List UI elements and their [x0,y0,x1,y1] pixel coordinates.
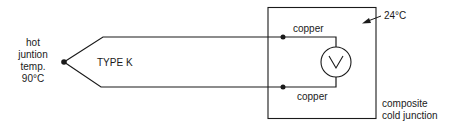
cold-junction-label-line-1: composite [382,98,428,109]
temperature-arrow-icon [362,16,381,24]
cold-junction-label-line-2: cold junction [382,110,438,121]
lower-copper-label: copper [297,91,328,102]
hot-junction-label-line-2: juntion [17,49,47,60]
upper-copper-wire [283,37,336,47]
hot-junction-label-line-1: hot [26,37,40,48]
thermocouple-type-label: TYPE K [97,57,133,68]
lower-copper-wire [283,77,336,87]
hot-junction-label-line-4: 90°C [22,73,44,84]
cold-junction-temperature: 24°C [384,10,406,21]
thermocouple-diagram: hot juntion temp. 90°C TYPE K copper cop… [0,0,461,130]
upper-copper-label: copper [293,23,324,34]
hot-junction-label-line-3: temp. [20,61,45,72]
voltmeter-icon [321,47,351,77]
